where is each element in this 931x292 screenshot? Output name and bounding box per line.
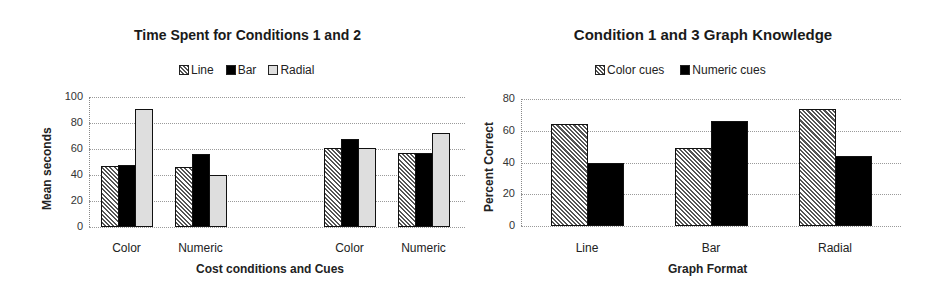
y-tick-label: 20: [55, 194, 83, 206]
gridline: [89, 97, 465, 98]
y-tick-label: 0: [55, 220, 83, 232]
legend-label: Line: [191, 63, 214, 77]
hatch-swatch-icon: [595, 65, 605, 75]
black-swatch-icon: [680, 65, 690, 75]
bar-numeric-cues: [835, 156, 872, 226]
y-tick-label: 40: [55, 168, 83, 180]
bar-radial: [358, 148, 376, 227]
x-tick-label: Bar: [671, 241, 751, 255]
y-tick-label: 80: [55, 116, 83, 128]
legend-item-line: Line: [179, 63, 214, 77]
bar-line: [398, 153, 416, 227]
bar-bar: [192, 154, 210, 227]
y-tick-label: 60: [487, 124, 515, 136]
y-axis-line: [521, 99, 522, 226]
legend-item-bar: Bar: [226, 63, 257, 77]
bar-bar: [415, 153, 433, 227]
black-swatch-icon: [226, 65, 236, 75]
x-tick-label: Color: [87, 241, 167, 255]
bar-line: [324, 148, 342, 227]
legend-label: Numeric cues: [692, 63, 765, 77]
bar-bar: [341, 139, 359, 227]
bar-numeric-cues: [711, 121, 748, 226]
legend-item-color-cues: Color cues: [595, 63, 664, 77]
x-tick-label: Numeric: [161, 241, 241, 255]
chart-title: Condition 1 and 3 Graph Knowledge: [465, 26, 931, 43]
legend-item-radial: Radial: [268, 63, 314, 77]
bar-color-cues: [675, 148, 712, 226]
bar-radial: [209, 175, 227, 227]
legend-item-numeric-cues: Numeric cues: [680, 63, 765, 77]
y-tick-label: 40: [487, 156, 515, 168]
legend: Color cues Numeric cues: [595, 63, 766, 77]
legend: Line Bar Radial: [179, 63, 314, 77]
y-tick-label: 100: [55, 90, 83, 102]
legend-label: Radial: [280, 63, 314, 77]
chart-graph-knowledge: Condition 1 and 3 Graph Knowledge Color …: [465, 0, 931, 292]
x-tick-label: Radial: [795, 241, 875, 255]
chart-time-spent: Time Spent for Conditions 1 and 2 Line B…: [0, 0, 465, 292]
chart-title: Time Spent for Conditions 1 and 2: [0, 27, 465, 43]
gridline: [89, 227, 465, 228]
y-axis-title: Mean seconds: [40, 127, 54, 210]
bar-numeric-cues: [587, 163, 624, 227]
x-axis-title: Cost conditions and Cues: [196, 262, 344, 276]
x-axis-title: Graph Format: [668, 262, 747, 276]
x-tick-label: Numeric: [384, 241, 464, 255]
plot-area: 020406080: [521, 99, 901, 226]
y-axis-line: [89, 97, 90, 227]
y-tick-label: 0: [487, 219, 515, 231]
bar-bar: [118, 165, 136, 227]
y-tick-label: 20: [487, 187, 515, 199]
bar-radial: [432, 133, 450, 227]
x-tick-label: Line: [547, 241, 627, 255]
bar-color-cues: [799, 109, 836, 226]
gridline: [521, 226, 901, 227]
y-tick-label: 80: [487, 92, 515, 104]
gridline: [521, 99, 901, 100]
bar-line: [101, 166, 119, 227]
x-tick-label: Color: [310, 241, 390, 255]
plot-area: 020406080100: [89, 97, 465, 227]
bar-radial: [135, 109, 153, 227]
bar-color-cues: [551, 124, 588, 226]
light-swatch-icon: [268, 65, 278, 75]
bar-line: [175, 167, 193, 227]
y-tick-label: 60: [55, 142, 83, 154]
hatch-swatch-icon: [179, 65, 189, 75]
legend-label: Color cues: [607, 63, 664, 77]
legend-label: Bar: [238, 63, 257, 77]
